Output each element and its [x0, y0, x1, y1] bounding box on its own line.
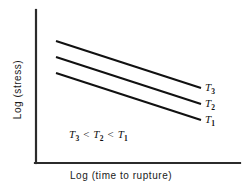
inequality-operator-first: < [79, 128, 93, 140]
series-label-t1-subscript: 1 [211, 119, 215, 128]
x-axis-label: Log (time to rupture) [70, 170, 172, 181]
inequality-t1-subscript: 1 [124, 134, 128, 143]
series-label-t2: T2 [205, 97, 215, 112]
series-label-t2-subscript: 2 [211, 103, 215, 112]
temperature-ordering-annotation: T3 < T2 < T1 [69, 128, 128, 143]
y-axis-label: Log (stress) [12, 50, 23, 130]
series-label-t3-subscript: 3 [211, 87, 215, 96]
series-label-t1: T1 [205, 113, 215, 128]
series-label-t3: T3 [205, 81, 215, 96]
creep-rupture-figure: Log (time to rupture) Log (stress) T3 T2… [0, 0, 248, 191]
inequality-operator-second: < [104, 128, 118, 140]
